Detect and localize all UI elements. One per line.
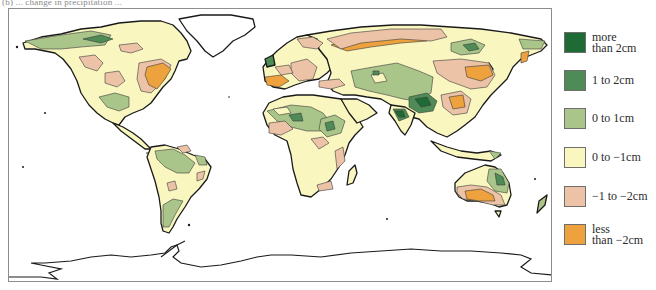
legend-swatch (564, 186, 586, 207)
island (16, 46, 18, 48)
legend-swatch (564, 108, 586, 129)
world-map (8, 8, 552, 282)
legend-label: 0 to −1cm (592, 152, 641, 163)
legend-label: less than −2cm (592, 224, 643, 246)
zone-bolivia-pink (167, 181, 177, 191)
legend-label: more than 2cm (592, 32, 636, 54)
legend-swatch (564, 70, 586, 91)
legend-swatch (564, 32, 586, 53)
zone-kamchatka (521, 51, 529, 63)
legend-item-more-than-2cm: more than 2cm (564, 32, 656, 58)
figure-caption: (b) ... change in precipitation ... (2, 0, 122, 7)
legend-item-minus-1-to-minus-2cm: −1 to −2cm (564, 186, 656, 212)
island (228, 96, 230, 98)
central-america (113, 123, 151, 149)
island (22, 166, 24, 168)
british-isles (265, 55, 275, 67)
island (188, 224, 190, 226)
new-zealand (537, 195, 547, 213)
island (534, 178, 536, 180)
zone-caspian-green (373, 71, 379, 75)
legend-swatch (564, 147, 586, 168)
madagascar (347, 165, 357, 185)
legend-label: 1 to 2cm (592, 75, 634, 86)
world-map-svg (9, 9, 552, 282)
island (146, 152, 148, 154)
legend-label: 0 to 1cm (592, 113, 634, 124)
legend-item-less-than-minus-2cm: less than −2cm (564, 224, 656, 250)
legend-item-0-to-minus-1cm: 0 to −1cm (564, 147, 656, 173)
antarctic-peninsula (161, 241, 185, 257)
zone-great-lakes (145, 63, 171, 89)
antarctica-coastline (9, 245, 552, 279)
zone-ethiopia-core (325, 121, 335, 131)
legend-label: −1 to −2cm (592, 191, 648, 202)
tasmania (495, 211, 501, 217)
zone-east-siberia (519, 39, 545, 49)
zone-east-africa-pink (335, 147, 345, 169)
island (44, 112, 46, 114)
legend-swatch (564, 224, 586, 245)
legend-item-0-to-1cm: 0 to 1cm (564, 108, 656, 134)
legend-item-1-to-2cm: 1 to 2cm (564, 70, 656, 96)
island (386, 218, 388, 220)
